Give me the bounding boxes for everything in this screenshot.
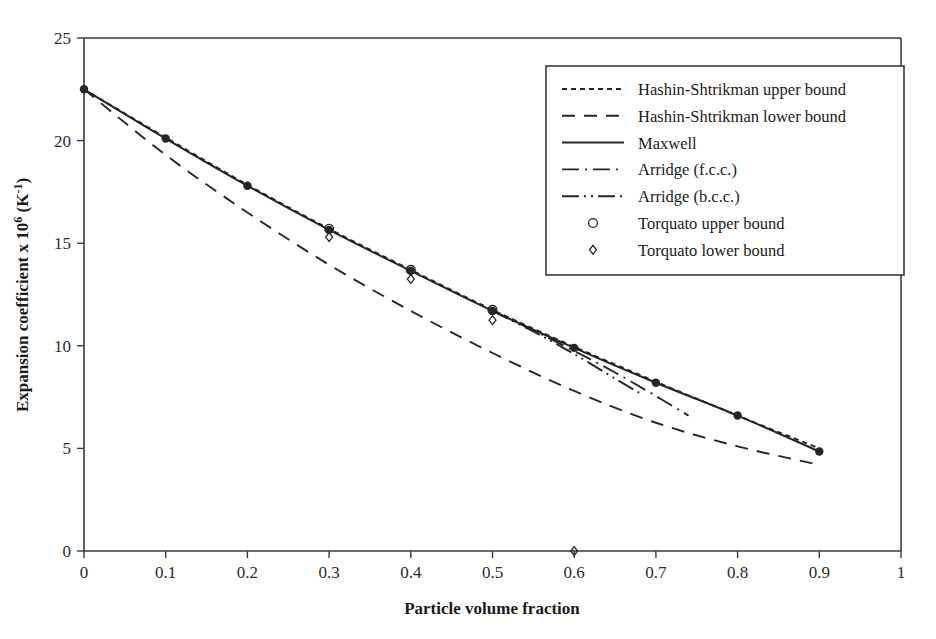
expansion-coefficient-chart: 0510152025 00.10.20.30.40.50.60.70.80.91… [0, 0, 936, 639]
x-tick-label: 0.9 [809, 563, 830, 582]
x-tick-label: 0.2 [237, 563, 258, 582]
legend-item-label: Hashin-Shtrikman lower bound [638, 107, 847, 126]
x-tick-label: 0.3 [318, 563, 339, 582]
y-axis-title: Expansion coefficient x 106 (K-1) [11, 178, 32, 412]
x-tick-label: 0.7 [645, 563, 667, 582]
data-point-filled-circle [652, 379, 660, 387]
legend-item-label: Torquato upper bound [638, 214, 785, 233]
chart-figure: 0510152025 00.10.20.30.40.50.60.70.80.91… [0, 0, 936, 639]
x-tick-label: 0.8 [727, 563, 748, 582]
y-axis-title-unit-close: ) [13, 178, 32, 184]
data-point-filled-circle [733, 411, 741, 419]
x-tick-label: 0 [80, 563, 89, 582]
y-tick-label: 20 [54, 132, 71, 151]
x-tick-label: 0.5 [482, 563, 503, 582]
legend-item-label: Arridge (b.c.c.) [638, 187, 740, 206]
y-tick-label: 25 [54, 29, 71, 48]
data-point-filled-circle [815, 447, 823, 455]
legend-item-label: Arridge (f.c.c.) [638, 160, 737, 179]
y-tick-label: 0 [63, 542, 72, 561]
legend-item-label: Torquato lower bound [638, 241, 785, 260]
y-tick-label: 10 [54, 337, 71, 356]
legend-item-label: Hashin-Shtrikman upper bound [638, 80, 847, 99]
legend-item-label: Maxwell [638, 134, 697, 153]
x-tick-label: 0.1 [155, 563, 176, 582]
data-point-filled-circle [243, 182, 251, 190]
x-axis-title: Particle volume fraction [404, 599, 580, 618]
svg-text:Expansion coefficient x 106 (K: Expansion coefficient x 106 (K-1) [11, 178, 32, 412]
legend: Hashin-Shtrikman upper boundHashin-Shtri… [546, 66, 904, 275]
y-axis-title-unit-open: (K [13, 193, 32, 217]
x-tick-label: 1 [897, 563, 906, 582]
x-tick-label: 0.4 [400, 563, 422, 582]
data-point-filled-circle [162, 134, 170, 142]
data-point-filled-circle [570, 344, 578, 352]
y-axis-title-unit-exponent: -1 [11, 184, 25, 194]
x-tick-label: 0.6 [564, 563, 585, 582]
data-point-filled-circle [80, 85, 88, 93]
y-tick-label: 5 [63, 439, 72, 458]
y-tick-label: 15 [54, 234, 71, 253]
y-axis-title-main: Expansion coefficient x 10 [13, 223, 32, 412]
